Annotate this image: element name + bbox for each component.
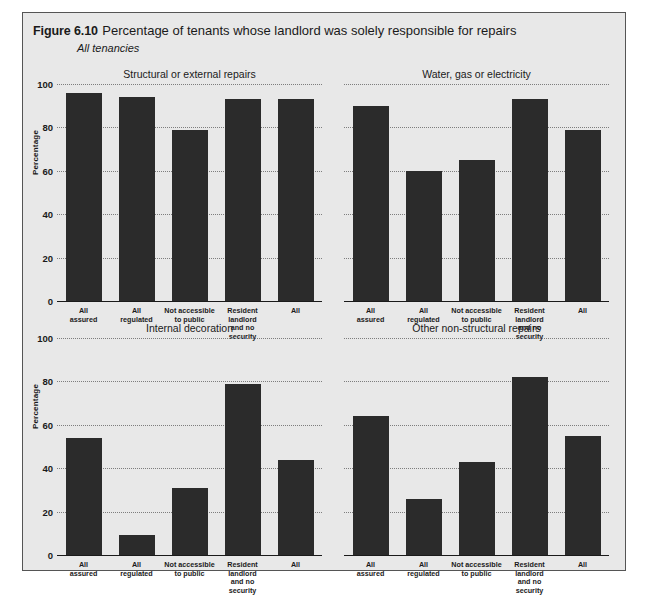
x-axis-tick-label: All regulated [397,557,450,595]
x-axis-labels: All assuredAll regulatedNot accessible t… [344,557,609,595]
x-axis-tick-label: All assured [57,557,110,595]
bar[interactable] [172,130,208,301]
bar[interactable] [66,93,102,301]
x-axis-tick-label: Resident landlord and no security [216,557,269,595]
bar-slot [269,84,322,301]
bar[interactable] [278,99,314,301]
bar[interactable] [459,160,495,301]
panel-internal-decoration: Internal decoration All assuredAll regul… [57,338,322,555]
bar-slot [503,84,556,301]
x-axis-labels: All assuredAll regulatedNot accessible t… [57,557,322,595]
bar[interactable] [406,171,442,301]
panel-title: Other non-structural repairs [344,322,609,334]
bar-slot [57,338,110,555]
bar[interactable] [353,106,389,301]
figure-header: Figure 6.10 Percentage of tenants whose … [33,21,617,54]
plot-area [344,84,609,302]
y-axis-tick: 20 [42,506,53,517]
y-axis-tick: 40 [42,209,53,220]
y-axis-tick: 0 [48,296,53,307]
bar[interactable] [119,97,155,301]
panel-water-gas-or-electricity: Water, gas or electricity All assuredAll… [344,84,609,301]
bar-slot [556,338,609,555]
x-axis-tick-label: Not accessible to public [163,557,216,595]
figure-frame: Figure 6.10 Percentage of tenants whose … [22,12,626,571]
y-axis-tick: 20 [42,252,53,263]
bar-slot [216,84,269,301]
bar-slot [216,338,269,555]
y-axis-tick: 0 [48,550,53,561]
panel-title: Water, gas or electricity [344,68,609,80]
plot-area [57,84,322,302]
x-axis-tick-label: Resident landlord and no security [503,557,556,595]
y-axis-tick: 100 [37,79,53,90]
figure-title-line: Figure 6.10 Percentage of tenants whose … [33,21,617,39]
bar[interactable] [512,99,548,301]
y-axis-top: 100806040200 [23,76,53,301]
x-axis-tick-label: All regulated [110,557,163,595]
bar-slot [269,338,322,555]
bar[interactable] [565,130,601,301]
plot-area [344,338,609,556]
x-axis-tick-label: All assured [344,557,397,595]
bar[interactable] [66,438,102,555]
y-axis-tick: 60 [42,165,53,176]
bar-slot [57,84,110,301]
figure-subtitle: All tenancies [77,42,617,54]
panel-structural-or-external-repairs: Structural or external repairs All assur… [57,84,322,301]
bar-slot [163,84,216,301]
bar-group [344,338,609,555]
bar[interactable] [119,535,155,555]
bar-slot [110,338,163,555]
bar-group [57,338,322,555]
bar-slot [556,84,609,301]
y-axis-tick: 100 [37,333,53,344]
bar-slot [163,338,216,555]
plot-area [57,338,322,556]
y-axis-label-bottom: Percentage [31,372,40,442]
panel-title: Structural or external repairs [57,68,322,80]
y-axis-tick: 80 [42,122,53,133]
bar[interactable] [459,462,495,555]
bar-slot [397,338,450,555]
y-axis-label-top: Percentage [31,118,40,188]
bar-slot [397,84,450,301]
bar-slot [344,84,397,301]
y-axis-bottom: 100806040200 [23,330,53,555]
bar[interactable] [225,384,261,555]
bar-group [57,84,322,301]
y-axis-tick: 60 [42,419,53,430]
bar[interactable] [172,488,208,555]
bar-slot [344,338,397,555]
bar-slot [503,338,556,555]
bar[interactable] [278,460,314,555]
x-axis-tick-label: All [269,557,322,595]
bar-slot [110,84,163,301]
panel-other-non-structural-repairs: Other non-structural repairs All assured… [344,338,609,555]
bar[interactable] [406,499,442,555]
bar[interactable] [225,99,261,301]
bar-slot [450,338,503,555]
panel-title: Internal decoration [57,322,322,334]
y-axis-tick: 40 [42,463,53,474]
bar[interactable] [512,377,548,555]
x-axis-tick-label: Not accessible to public [450,557,503,595]
x-axis-tick-label: All [556,557,609,595]
bar[interactable] [565,436,601,555]
figure-number: Figure 6.10 [33,24,98,38]
bar-group [344,84,609,301]
bar-slot [450,84,503,301]
y-axis-tick: 80 [42,376,53,387]
bar[interactable] [353,416,389,555]
figure-title: Percentage of tenants whose landlord was… [102,23,516,38]
